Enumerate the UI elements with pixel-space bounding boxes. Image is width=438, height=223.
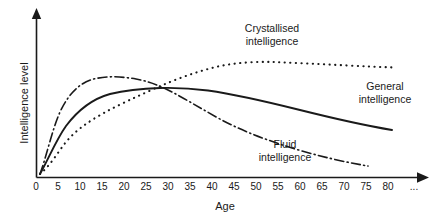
y-axis: [32, 8, 41, 178]
annotation-crystallised-line1: Crystallised: [245, 22, 299, 35]
x-tick-label-70: 70: [338, 181, 349, 192]
series-line-crystallised: [40, 62, 392, 174]
chart-plot-area: [0, 0, 438, 223]
x-tick-label-65: 65: [316, 181, 327, 192]
x-tick-label-15: 15: [96, 181, 107, 192]
x-tick-label-30: 30: [162, 181, 173, 192]
x-tick-label-35: 35: [184, 181, 195, 192]
series-line-fluid: [40, 77, 368, 174]
annotation-general: General intelligence: [359, 80, 412, 105]
y-axis-arrowhead-icon: [32, 8, 41, 19]
x-tick-label-45: 45: [228, 181, 239, 192]
annotation-general-line1: General: [359, 80, 412, 93]
annotation-general-line2: intelligence: [359, 93, 412, 106]
x-tick-label-20: 20: [118, 181, 129, 192]
annotation-crystallised: Crystallised intelligence: [245, 22, 299, 47]
x-tick-label-50: 50: [250, 181, 261, 192]
x-axis-arrowhead-icon: [417, 172, 429, 182]
annotation-fluid: Fluid intelligence: [259, 138, 312, 163]
x-tick-label-10: 10: [74, 181, 85, 192]
chart-figure: 0 5 10 15 20 25 30 35 40 45 50 55 60 65 …: [0, 0, 438, 223]
x-tick-label-0: 0: [33, 181, 39, 192]
x-tick-label-25: 25: [140, 181, 151, 192]
x-axis-title: Age: [215, 200, 235, 212]
x-tick-label-55: 55: [272, 181, 283, 192]
x-tick-label-80: 80: [382, 181, 393, 192]
annotation-crystallised-line2: intelligence: [245, 35, 299, 48]
x-tick-label-5: 5: [55, 181, 61, 192]
x-tick-label-40: 40: [206, 181, 217, 192]
annotation-fluid-line1: Fluid: [259, 138, 312, 151]
x-tick-label-60: 60: [294, 181, 305, 192]
x-tick-label-75: 75: [360, 181, 371, 192]
annotation-fluid-line2: intelligence: [259, 151, 312, 164]
x-tick-label-ellipsis: ...: [410, 181, 418, 192]
y-axis-title: Intelligence level: [18, 43, 30, 163]
